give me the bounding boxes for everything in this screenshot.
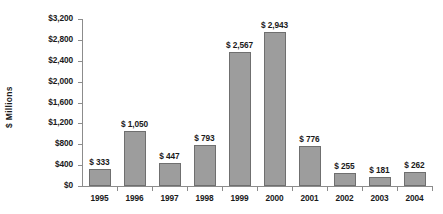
- bar-value-label: $ 262: [404, 160, 424, 170]
- bar-value-label: $ 333: [89, 157, 109, 167]
- y-axis-tick-label: $400: [55, 159, 73, 169]
- y-axis-tick-label: $800: [55, 138, 73, 148]
- plot-area: $ 333$ 1,050$ 447$ 793$ 2,567$ 2,943$ 77…: [82, 19, 432, 186]
- x-axis-category-label: 2000: [257, 193, 292, 203]
- bar-group: $ 2,943: [264, 19, 286, 186]
- bar-group: $ 447: [159, 19, 181, 186]
- x-axis-category-label: 2004: [397, 193, 432, 203]
- y-axis-tick-label: $1,200: [48, 117, 73, 127]
- bar-group: $ 1,050: [124, 19, 146, 186]
- y-axis-tick-label: $0: [64, 180, 73, 190]
- x-axis-category-label: 2002: [327, 193, 362, 203]
- bar-value-label: $ 793: [194, 133, 214, 143]
- x-axis-tick-mark: [222, 187, 223, 191]
- x-axis-category-label: 1996: [117, 193, 152, 203]
- bar: [229, 52, 251, 186]
- x-axis-tick-mark: [152, 187, 153, 191]
- x-axis-tick-mark: [187, 187, 188, 191]
- bar-value-label: $ 447: [159, 151, 179, 161]
- x-axis-tick-mark: [432, 187, 433, 191]
- x-axis-category-label: 1997: [152, 193, 187, 203]
- bar-value-label: $ 776: [299, 134, 319, 144]
- bar: [299, 146, 321, 186]
- y-axis-title: $ Millions: [0, 0, 18, 214]
- bar: [264, 32, 286, 186]
- x-axis-category-label: 2001: [292, 193, 327, 203]
- bar: [334, 173, 356, 186]
- bar: [369, 177, 391, 186]
- bar-group: $ 181: [369, 19, 391, 186]
- bar-group: $ 262: [404, 19, 426, 186]
- bar-value-label: $ 2,943: [261, 20, 288, 30]
- bar-group: $ 776: [299, 19, 321, 186]
- x-axis-category-label: 1998: [187, 193, 222, 203]
- bar-value-label: $ 1,050: [121, 119, 148, 129]
- bar-value-label: $ 181: [369, 165, 389, 175]
- y-axis-tick-label: $1,600: [48, 97, 73, 107]
- bar-group: $ 793: [194, 19, 216, 186]
- y-axis-tick-label: $2,400: [48, 55, 73, 65]
- y-axis-tick-label: $2,000: [48, 76, 73, 86]
- x-axis-tick-mark: [327, 187, 328, 191]
- x-axis-category-label: 1995: [82, 193, 117, 203]
- x-axis-tick-mark: [292, 187, 293, 191]
- bar-group: $ 255: [334, 19, 356, 186]
- x-axis-tick-mark: [362, 187, 363, 191]
- bar: [124, 131, 146, 186]
- bar-value-label: $ 2,567: [226, 40, 253, 50]
- x-axis-category-label: 2003: [362, 193, 397, 203]
- x-axis-category-label: 1999: [222, 193, 257, 203]
- x-axis-tick-mark: [257, 187, 258, 191]
- y-axis-tick-label: $2,800: [48, 34, 73, 44]
- bar-group: $ 333: [89, 19, 111, 186]
- bar: [194, 145, 216, 186]
- bar: [89, 169, 111, 186]
- x-axis-tick-mark: [117, 187, 118, 191]
- bar-group: $ 2,567: [229, 19, 251, 186]
- bar: [404, 172, 426, 186]
- bar: [159, 163, 181, 186]
- bar-chart-figure: $ Millions $3,200$2,800$2,400$2,000$1,60…: [0, 0, 443, 214]
- x-axis-tick-mark: [397, 187, 398, 191]
- y-axis-tick-label: $3,200: [48, 13, 73, 23]
- bar-value-label: $ 255: [334, 161, 354, 171]
